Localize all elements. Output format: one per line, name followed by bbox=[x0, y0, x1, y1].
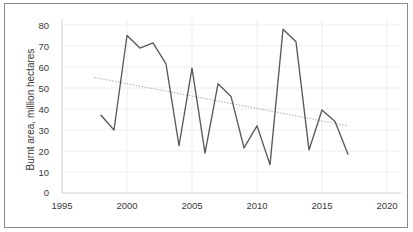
chart-plot-area: Burnt area, million hectares 80 70 60 50… bbox=[5, 4, 413, 232]
chart-canvas bbox=[5, 4, 413, 232]
chart-frame: Burnt area, million hectares 80 70 60 50… bbox=[4, 3, 408, 228]
data-series-line bbox=[101, 29, 348, 164]
grid-lines bbox=[62, 19, 401, 193]
trendline-series bbox=[95, 78, 349, 126]
